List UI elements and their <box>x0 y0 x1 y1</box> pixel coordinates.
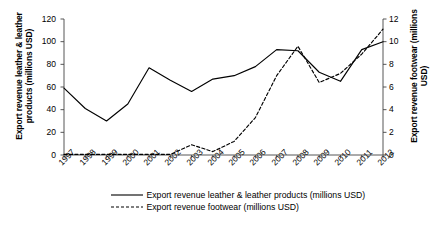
chart-figure: Export revenue leather & leather product… <box>0 0 443 226</box>
axis-lines <box>64 19 383 155</box>
tick-marks <box>61 19 387 159</box>
legend-swatch-solid-icon <box>110 190 144 200</box>
legend-item-footwear: Export revenue footwear (millions USD) <box>110 201 299 212</box>
legend-label-leather: Export revenue leather & leather product… <box>146 190 365 200</box>
legend-swatch-dashed-icon <box>110 202 144 212</box>
series-line <box>64 29 383 154</box>
legend-label-footwear: Export revenue footwear (millions USD) <box>146 202 299 212</box>
series-lines <box>64 29 383 154</box>
legend-item-leather: Export revenue leather & leather product… <box>110 189 365 200</box>
series-line <box>64 42 383 121</box>
